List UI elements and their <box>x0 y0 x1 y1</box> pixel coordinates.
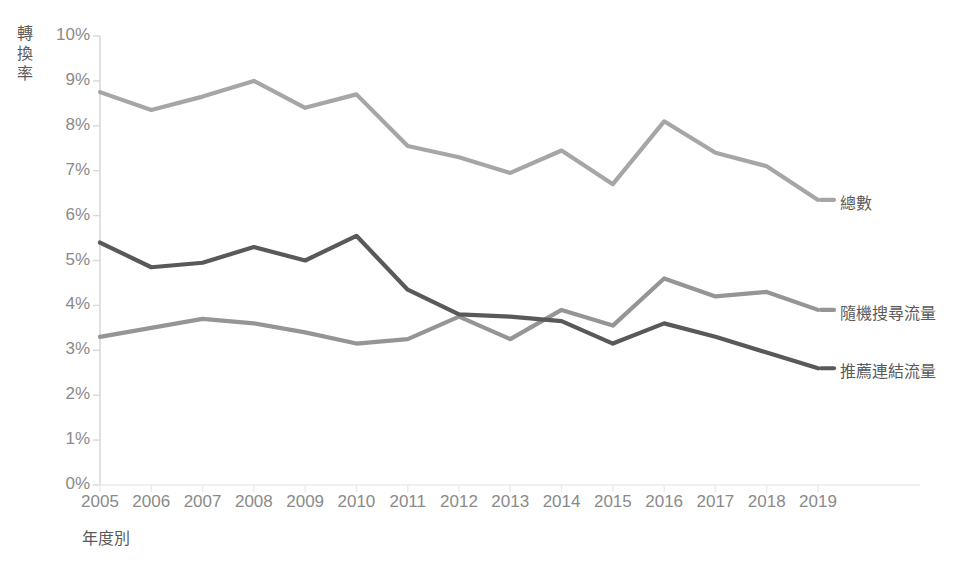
series-line <box>100 236 818 368</box>
series-line <box>100 81 818 200</box>
data-series-lines <box>100 81 834 368</box>
axis-lines <box>93 36 920 492</box>
conversion-rate-line-chart: 轉換率 年度別 10%9%8%7%6%5%4%3%2%1%0% 20052006… <box>0 0 962 573</box>
plot-area <box>0 0 962 573</box>
